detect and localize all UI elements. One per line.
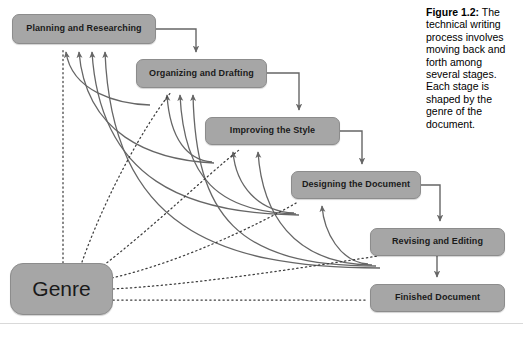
figure-container: Planning and Researching Organizing and … bbox=[0, 0, 523, 337]
figure-caption-label: Figure 1.2: bbox=[426, 6, 479, 18]
stage-box-improving[interactable]: Improving the Style bbox=[205, 117, 340, 145]
connector-designing-to-revising bbox=[421, 185, 440, 221]
figure-caption-text: The technical writing process involves m… bbox=[426, 6, 505, 130]
feedback-revising-to-designing bbox=[322, 206, 368, 264]
genre-to-organizing bbox=[82, 92, 171, 262]
stage-label-designing: Designing the Document bbox=[302, 180, 410, 190]
stage-label-organizing: Organizing and Drafting bbox=[149, 69, 254, 79]
stage-box-designing[interactable]: Designing the Document bbox=[291, 171, 421, 199]
stage-box-planning[interactable]: Planning and Researching bbox=[12, 14, 156, 44]
stage-label-finished: Finished Document bbox=[395, 293, 480, 303]
stage-label-genre: Genre bbox=[32, 277, 90, 300]
connector-planning-to-organizing bbox=[156, 29, 196, 52]
figure-caption: Figure 1.2: The technical writing proces… bbox=[426, 6, 518, 130]
feedback-revising-to-improving bbox=[258, 152, 372, 265]
stage-label-improving: Improving the Style bbox=[230, 126, 315, 136]
stage-label-revising: Revising and Editing bbox=[392, 237, 483, 247]
stage-label-planning: Planning and Researching bbox=[26, 24, 141, 34]
stage-box-revising[interactable]: Revising and Editing bbox=[370, 228, 505, 256]
connector-improving-to-designing bbox=[340, 131, 362, 164]
feedback-designing-to-improving bbox=[233, 152, 294, 213]
stage-box-organizing[interactable]: Organizing and Drafting bbox=[136, 59, 267, 88]
feedback-designing-to-organizing bbox=[180, 95, 296, 214]
figure-bottom-rule bbox=[0, 323, 523, 324]
connector-organizing-to-improving bbox=[267, 73, 299, 110]
stage-box-genre[interactable]: Genre bbox=[10, 263, 113, 315]
stage-box-finished[interactable]: Finished Document bbox=[370, 284, 505, 312]
genre-to-improving bbox=[100, 150, 239, 268]
